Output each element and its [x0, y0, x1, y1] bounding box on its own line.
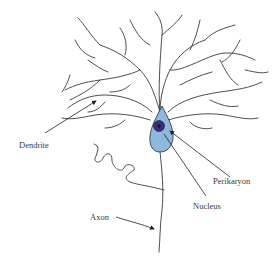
label-dendrite: Dendrite: [19, 140, 49, 150]
nucleolus: [157, 124, 161, 128]
label-perikaryon: Perikaryon: [213, 176, 251, 186]
axon-pointer: [116, 217, 154, 229]
neuron-diagram: Dendrite Perikaryon Nucleus Axon: [0, 0, 278, 267]
perikaryon-pointer: [170, 131, 230, 177]
nucleus-pointer: [164, 134, 206, 196]
axon: [159, 152, 163, 252]
axon-collateral: [94, 144, 164, 190]
label-axon: Axon: [90, 212, 110, 222]
label-nucleus: Nucleus: [193, 201, 221, 211]
